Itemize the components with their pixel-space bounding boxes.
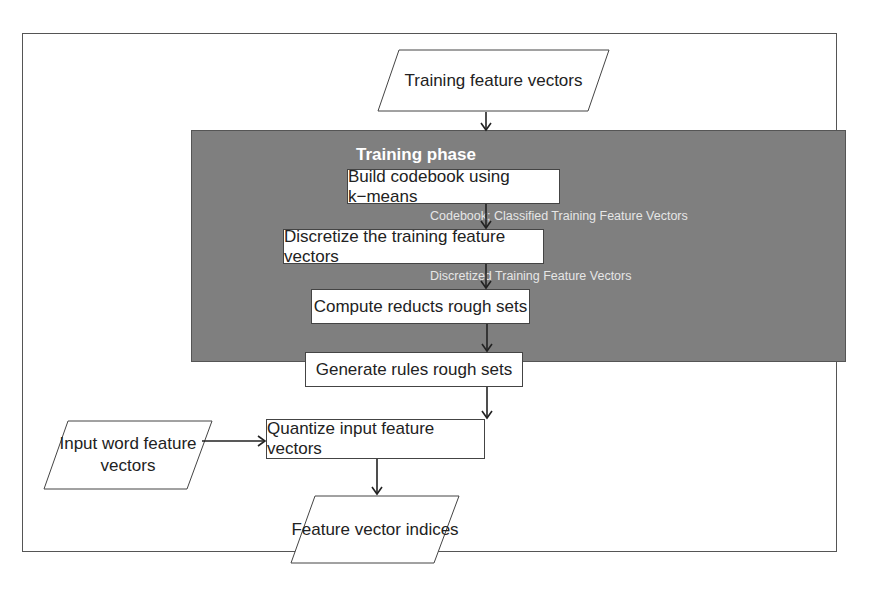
connector-arrows bbox=[0, 0, 885, 604]
